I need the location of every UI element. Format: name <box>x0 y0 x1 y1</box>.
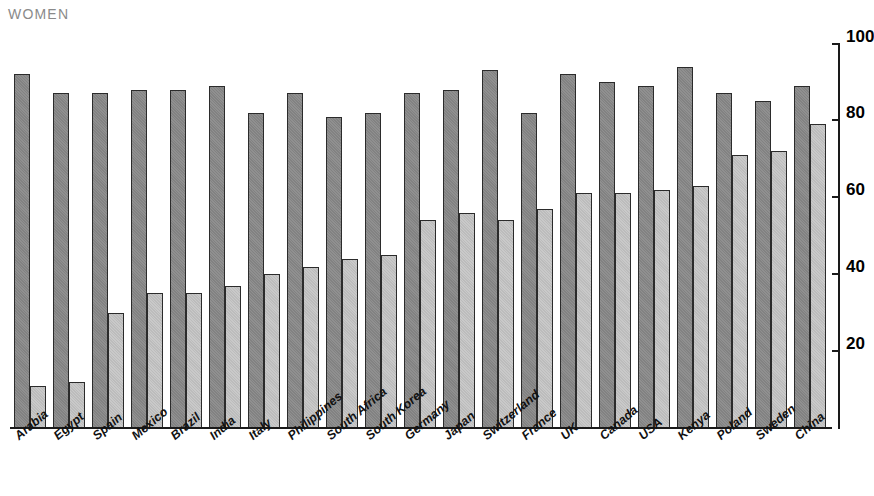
plot-area <box>10 30 830 428</box>
bar-dark <box>638 86 654 428</box>
bar-dark <box>677 67 693 428</box>
bar-dark <box>521 113 537 428</box>
bar-groups-container <box>10 30 830 428</box>
bar-dark <box>248 113 264 428</box>
bar-group <box>361 30 400 428</box>
bar-light <box>381 255 397 428</box>
bar-dark <box>92 93 108 428</box>
bar-dark <box>443 90 459 428</box>
y-tick-mark <box>832 43 840 45</box>
bar-light <box>498 220 514 428</box>
bar-group <box>400 30 439 428</box>
y-tick-label: 100 <box>846 28 874 45</box>
bar-group <box>596 30 635 428</box>
y-tick-mark <box>832 273 840 275</box>
bar-dark <box>482 70 498 428</box>
bar-group <box>791 30 830 428</box>
bar-group <box>127 30 166 428</box>
bar-light <box>654 190 670 428</box>
y-tick-label: 60 <box>846 181 865 198</box>
bar-dark <box>131 90 147 428</box>
x-axis-labels: ArabiaEgyptSpainMexicoBrazilIndiaItalyPh… <box>10 430 830 496</box>
bar-dark <box>14 74 30 428</box>
y-tick-mark <box>832 350 840 352</box>
bar-group <box>674 30 713 428</box>
bar-group <box>283 30 322 428</box>
bar-group <box>244 30 283 428</box>
bar-light <box>264 274 280 428</box>
bar-light <box>459 213 475 428</box>
bar-light <box>810 124 826 428</box>
bar-group <box>713 30 752 428</box>
y-tick-label: 40 <box>846 258 865 275</box>
bar-group <box>49 30 88 428</box>
y-tick-label: 20 <box>846 335 865 352</box>
bar-light <box>576 193 592 428</box>
bar-dark <box>365 113 381 428</box>
bar-group <box>166 30 205 428</box>
y-axis-line <box>838 44 840 429</box>
bar-dark <box>53 93 69 428</box>
bar-group <box>440 30 479 428</box>
bar-dark <box>170 90 186 428</box>
bar-group <box>88 30 127 428</box>
bar-group <box>10 30 49 428</box>
bar-dark <box>326 117 342 428</box>
bar-dark <box>794 86 810 428</box>
bar-dark <box>404 93 420 428</box>
bar-light <box>693 186 709 428</box>
bar-dark <box>560 74 576 428</box>
bar-group <box>479 30 518 428</box>
bar-group <box>322 30 361 428</box>
bar-light <box>771 151 787 428</box>
bar-light <box>225 286 241 428</box>
bar-light <box>303 267 319 429</box>
page-title: WOMEN <box>8 6 69 22</box>
bar-light <box>615 193 631 428</box>
bar-group <box>518 30 557 428</box>
bar-dark <box>287 93 303 428</box>
bar-light <box>732 155 748 428</box>
bar-dark <box>716 93 732 428</box>
bar-group <box>205 30 244 428</box>
bar-light <box>186 293 202 428</box>
y-tick-label: 80 <box>846 104 865 121</box>
bar-group <box>752 30 791 428</box>
bar-light <box>342 259 358 428</box>
bar-group <box>557 30 596 428</box>
y-tick-mark <box>832 119 840 121</box>
bar-dark <box>755 101 771 428</box>
bar-group <box>635 30 674 428</box>
y-tick-mark <box>832 196 840 198</box>
bar-dark <box>209 86 225 428</box>
bar-dark <box>599 82 615 428</box>
